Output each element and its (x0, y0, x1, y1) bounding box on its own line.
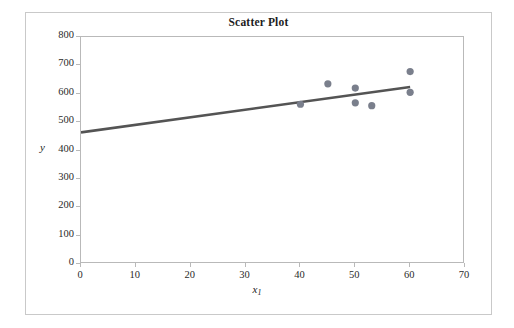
chart-title: Scatter Plot (25, 16, 492, 28)
y-axis-tick-label: 400 (36, 143, 74, 154)
scatter-plot-figure: Scatter Plot ^y = 463.89 + 2.67x1 y x1 0… (0, 0, 514, 328)
regression-trendline (81, 87, 410, 132)
x-axis-tick-label: 40 (279, 269, 319, 280)
plot-area (80, 36, 464, 263)
y-axis-tick-label: 800 (36, 29, 74, 40)
data-point (324, 80, 331, 87)
data-point (368, 102, 375, 109)
x-axis-tick-label: 50 (334, 269, 374, 280)
data-point (297, 101, 304, 108)
x-axis-tick-label: 70 (444, 269, 484, 280)
x-axis-tick-label: 10 (115, 269, 155, 280)
y-axis-tick-label: 500 (36, 114, 74, 125)
y-axis-tick-label: 0 (36, 256, 74, 267)
x-axis-label: x1 (0, 283, 514, 297)
trendline-group (81, 87, 410, 132)
y-axis-tick-label: 600 (36, 86, 74, 97)
y-axis-tick-label: 100 (36, 228, 74, 239)
y-axis-tick-label: 200 (36, 199, 74, 210)
x-axis-label-subscript: 1 (257, 288, 261, 297)
data-point (352, 84, 359, 91)
x-axis-tick-label: 30 (225, 269, 265, 280)
x-axis-tick-label: 20 (170, 269, 210, 280)
data-point (407, 89, 414, 96)
x-axis-tick-label: 60 (389, 269, 429, 280)
y-axis-tick-label: 300 (36, 171, 74, 182)
y-axis-tick-label: 700 (36, 57, 74, 68)
plot-canvas (81, 37, 465, 264)
x-axis-tick-label: 0 (60, 269, 100, 280)
data-point (407, 68, 414, 75)
data-point (352, 99, 359, 106)
